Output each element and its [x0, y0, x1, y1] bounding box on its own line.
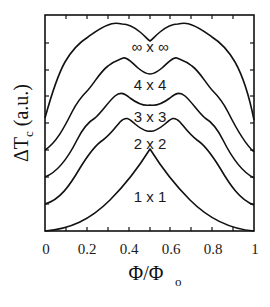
x-axis-label-sub: o	[175, 274, 182, 289]
x-tick-1: 1	[251, 241, 259, 257]
chart: ∞ x ∞ 4 x 4 3 x 3 2 x 2 1 x 1 0 0.2 0.4 …	[0, 0, 270, 307]
x-tick-0.8: 0.8	[204, 241, 223, 257]
x-tick-0.6: 0.6	[162, 241, 181, 257]
y-axis-label-units: (a.u.)	[10, 84, 33, 131]
x-axis-label: Φ/Φ o	[129, 262, 182, 289]
svg-text:ΔTc (a.u.): ΔTc (a.u.)	[10, 84, 36, 162]
label-3x3: 3 x 3	[134, 108, 167, 125]
label-2x2: 2 x 2	[134, 135, 167, 152]
label-infinity: ∞ x ∞	[131, 38, 169, 55]
label-1x1: 1 x 1	[134, 188, 167, 205]
label-4x4: 4 x 4	[134, 76, 167, 93]
x-tick-0.4: 0.4	[120, 241, 139, 257]
y-axis-label-main: ΔT	[10, 137, 32, 162]
x-axis-label-main: Φ/Φ	[129, 262, 164, 284]
x-tick-0: 0	[42, 241, 50, 257]
y-axis-label: ΔTc (a.u.)	[10, 84, 36, 162]
x-tick-0.2: 0.2	[78, 241, 97, 257]
